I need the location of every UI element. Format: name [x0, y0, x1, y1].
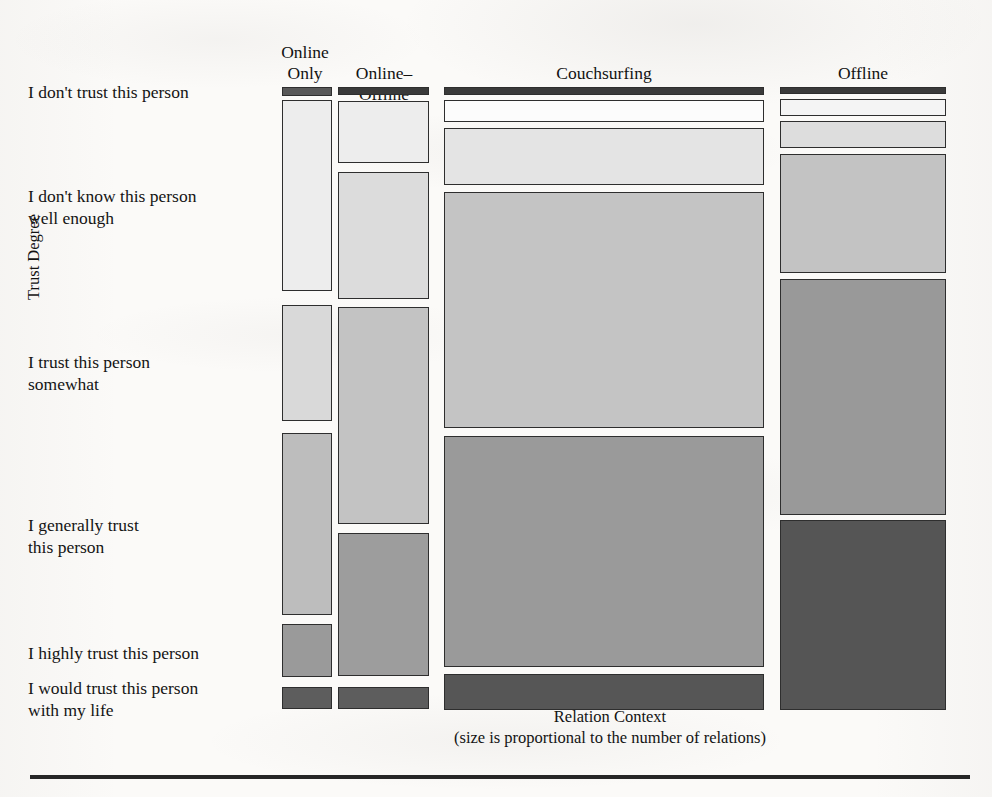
mosaic-tile-c1-r4 [338, 533, 429, 676]
mosaic-tile-grid [0, 0, 992, 730]
mosaic-tile-c3-r2 [780, 121, 946, 148]
x-axis-caption: Relation Context (size is proportional t… [330, 706, 890, 748]
mosaic-tile-c2-r4 [444, 436, 764, 667]
mosaic-tile-c3-r4 [780, 279, 946, 515]
mosaic-tile-c2-r5 [444, 674, 764, 710]
x-axis-title: Relation Context [330, 706, 890, 727]
x-axis-subtitle: (size is proportional to the number of r… [330, 727, 890, 748]
mosaic-tile-c1-r2 [338, 172, 429, 299]
mosaic-tile-c3-r3 [780, 154, 946, 273]
mosaic-tile-c2-r3 [444, 192, 764, 428]
mosaic-tile-c2-r1 [444, 100, 764, 122]
mosaic-tile-c0-r0 [282, 87, 332, 96]
page-bottom-rule [30, 775, 970, 779]
mosaic-tile-c3-r0 [780, 87, 946, 94]
mosaic-tile-c3-r1 [780, 99, 946, 116]
mosaic-tile-c1-r0 [338, 87, 429, 95]
mosaic-tile-c0-r4 [282, 624, 332, 677]
mosaic-tile-c1-r1 [338, 101, 429, 163]
mosaic-plot: Online Only Online–Offline Couchsurfing … [0, 0, 992, 797]
mosaic-tile-c3-r5 [780, 520, 946, 710]
mosaic-tile-c2-r0 [444, 87, 764, 95]
mosaic-tile-c0-r1 [282, 100, 332, 291]
mosaic-tile-c1-r3 [338, 307, 429, 524]
mosaic-tile-c0-r2 [282, 305, 332, 421]
mosaic-tile-c2-r2 [444, 128, 764, 185]
mosaic-tile-c0-r5 [282, 687, 332, 709]
mosaic-tile-c0-r3 [282, 433, 332, 615]
